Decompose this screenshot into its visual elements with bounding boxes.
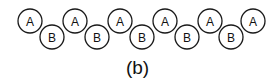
node-a: A (108, 9, 132, 33)
node-label: A (249, 15, 257, 29)
node-b: B (130, 25, 154, 49)
node-b: B (40, 25, 64, 49)
node-label: B (93, 31, 101, 45)
node-b: B (85, 25, 109, 49)
node-label: B (48, 31, 56, 45)
node-label: B (138, 31, 146, 45)
figure-caption: (b) (0, 57, 275, 79)
node-b: B (219, 25, 243, 49)
node-label: A (26, 15, 34, 29)
node-label: A (116, 15, 124, 29)
node-a: A (18, 9, 42, 33)
node-label: A (206, 15, 214, 29)
node-a: A (198, 9, 222, 33)
node-b: B (175, 25, 199, 49)
node-label: B (183, 31, 191, 45)
node-a: A (241, 9, 265, 33)
node-label: A (161, 15, 169, 29)
node-a: A (63, 9, 87, 33)
node-a: A (153, 9, 177, 33)
node-label: B (227, 31, 235, 45)
node-label: A (71, 15, 79, 29)
